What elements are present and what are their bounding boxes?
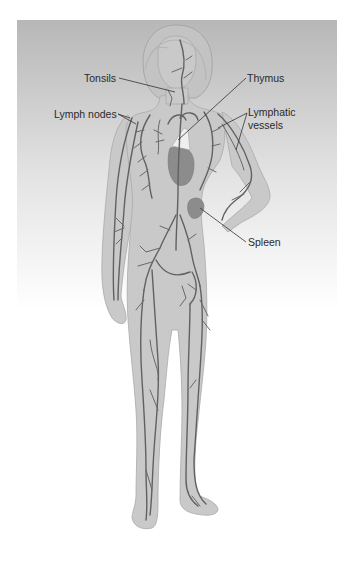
label-tonsils: Tonsils <box>84 72 116 84</box>
label-lymphatic-vessels-line2: vessels <box>248 119 283 131</box>
label-lymph-nodes: Lymph nodes <box>54 108 117 120</box>
label-spleen: Spleen <box>248 236 281 248</box>
label-lymphatic-vessels-line1: Lymphatic <box>248 106 295 118</box>
lymphatic-system-diagram: Tonsils Thymus Lymph nodes Lymphatic ves… <box>0 0 351 565</box>
label-thymus: Thymus <box>247 72 284 84</box>
